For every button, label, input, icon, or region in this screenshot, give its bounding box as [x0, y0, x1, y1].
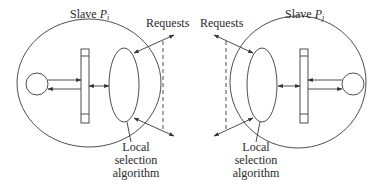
slave-pi-queue-bar	[81, 49, 89, 123]
slave-pi-title-prefix: Slave	[70, 7, 100, 21]
slave-pi-title-sub: i	[107, 13, 109, 22]
slave-pj-title: Slave Pj	[285, 8, 324, 24]
slave-pi-local-selection-algorithm	[109, 48, 139, 122]
slave-pj-boundary	[230, 16, 366, 148]
slave-pj-title-sub: j	[322, 13, 324, 22]
slave-pi-group	[17, 19, 174, 147]
slave-pj-title-var: P	[315, 7, 322, 21]
slave-pj-group	[214, 16, 366, 148]
slave-pj-queue-bar	[300, 49, 308, 123]
algo-label-line: algorithm	[226, 167, 286, 180]
slave-pi-algorithm-label: Local selection algorithm	[106, 141, 166, 180]
slave-pj-local-selection-algorithm	[247, 48, 277, 122]
diagram-canvas: Slave Pi Requests Local selection algori…	[0, 0, 386, 185]
slave-pj-title-prefix: Slave	[285, 7, 315, 21]
diagram-graphics	[0, 0, 386, 185]
slave-pi-processor	[26, 73, 48, 95]
slave-pj-processor	[342, 73, 364, 95]
algo-label-line: algorithm	[106, 167, 166, 180]
slave-pj-algorithm-label: Local selection algorithm	[226, 141, 286, 180]
slave-pi-title-var: P	[100, 7, 107, 21]
slave-pi-request-arrow-bottom	[134, 118, 174, 136]
slave-pj-request-arrow-bottom	[214, 118, 253, 136]
slave-pi-title: Slave Pi	[70, 8, 109, 24]
slave-pi-requests-label: Requests	[146, 17, 189, 30]
slave-pj-requests-label: Requests	[200, 17, 243, 30]
